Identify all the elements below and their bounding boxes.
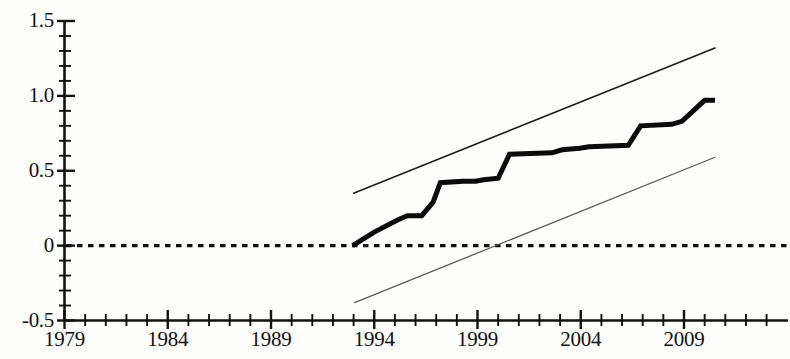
x-axis-tick-label: 1979: [25, 329, 105, 350]
y-axis-tick-label: 0: [44, 235, 54, 256]
x-axis-tick-label: 1989: [231, 329, 311, 350]
y-axis-tick-label: 0.5: [29, 160, 54, 181]
x-axis-tick-label: 2004: [541, 329, 621, 350]
x-axis-tick-label: 2009: [644, 329, 724, 350]
x-axis-tick-label: 1994: [334, 329, 414, 350]
x-axis-tick-label: 1984: [128, 329, 208, 350]
axis-lines: [64, 20, 788, 321]
chart-figure: 1.51.00.50-0.5 1979198419891994199920042…: [0, 0, 790, 359]
series-lower-confidence-bound: [355, 157, 715, 302]
series-upper-confidence-bound: [354, 48, 715, 193]
x-axis-tick-label: 1999: [438, 329, 518, 350]
y-axis-tick-label: 1.5: [29, 10, 54, 31]
y-axis-tick-label: 1.0: [29, 85, 54, 106]
chart-plot-area: [0, 0, 790, 359]
series-estimate: [353, 100, 715, 245]
